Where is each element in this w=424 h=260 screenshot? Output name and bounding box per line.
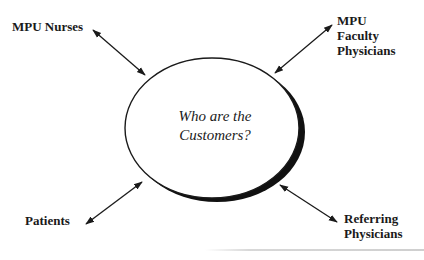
node-label: MPU Nurses — [12, 19, 83, 34]
arrow-mpu-faculty-physicians — [275, 25, 332, 73]
node-label: Physicians — [337, 43, 396, 58]
arrow-mpu-nurses — [93, 30, 145, 75]
node-patients: Patients — [25, 213, 70, 228]
center-question: Who are the Customers? — [140, 107, 290, 145]
arrow-referring-physicians — [280, 185, 337, 222]
center-line-2: Customers? — [140, 126, 290, 145]
center-line-1: Who are the — [140, 107, 290, 126]
node-label: Patients — [25, 213, 70, 228]
node-mpu-nurses: MPU Nurses — [12, 19, 83, 34]
node-label: Referring — [344, 211, 403, 226]
node-label: Physicians — [344, 226, 403, 241]
node-label: Faculty — [337, 28, 396, 43]
node-label: MPU — [337, 13, 396, 28]
node-referring-physicians: Referring Physicians — [344, 211, 403, 241]
arrow-patients — [86, 182, 142, 224]
bottom-rule — [205, 249, 424, 251]
node-mpu-faculty-physicians: MPU Faculty Physicians — [337, 13, 396, 58]
